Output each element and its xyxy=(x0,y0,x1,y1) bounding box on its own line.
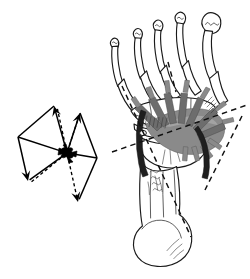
anatomy-vector-figure xyxy=(0,0,250,279)
figure-root xyxy=(0,0,250,279)
